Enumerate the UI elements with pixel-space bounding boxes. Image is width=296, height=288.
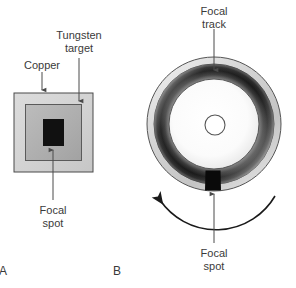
panel-b-rotating-anode: Focal track Focal spot B <box>113 5 281 278</box>
panel-letter-b: B <box>113 264 121 278</box>
rotor-hole <box>205 115 225 135</box>
label-focal-spot-a-line1: Focal <box>40 204 67 216</box>
label-copper: Copper <box>24 59 60 71</box>
anode-diagram-figure: Tungsten target Copper Focal spot A <box>0 0 296 288</box>
label-focal-spot-b-line1: Focal <box>201 247 228 259</box>
label-focal-track-line1: Focal <box>201 5 228 17</box>
focal-spot-rect-b <box>205 171 221 191</box>
rotation-direction-arrow <box>160 196 275 230</box>
label-tungsten-target-line2: target <box>65 42 93 54</box>
panel-a-stationary-anode: Tungsten target Copper Focal spot A <box>0 29 102 278</box>
label-tungsten-target-line1: Tungsten <box>56 29 101 41</box>
focal-spot-rect-a <box>43 119 64 146</box>
label-focal-spot-b-line2: spot <box>204 260 225 272</box>
label-focal-track-line2: track <box>202 18 226 30</box>
label-focal-spot-a-line2: spot <box>43 217 64 229</box>
panel-letter-a: A <box>0 264 7 278</box>
diagram-canvas: Tungsten target Copper Focal spot A <box>0 0 296 288</box>
